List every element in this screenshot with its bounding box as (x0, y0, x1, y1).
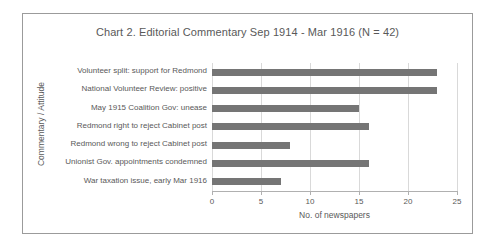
gridline-25 (457, 63, 458, 191)
bar-row: Redmond wrong to reject Cabinet post (212, 136, 457, 154)
bar-value[interactable] (212, 69, 437, 76)
x-tick-mark (261, 191, 262, 195)
category-label: National Volunteer Review: positive (82, 84, 207, 94)
category-label: War taxation issue, early Mar 1916 (84, 176, 207, 186)
bar-row: Volunteer split: support for Redmond (212, 63, 457, 81)
bar-value[interactable] (212, 105, 359, 112)
bar-value[interactable] (212, 178, 281, 185)
x-axis-title: No. of newspapers (212, 210, 457, 220)
chart-title: Chart 2. Editorial Commentary Sep 1914 -… (23, 26, 472, 38)
x-tick-mark (212, 191, 213, 195)
category-label: May 1915 Coalition Gov: unease (91, 103, 207, 113)
x-tick-label: 5 (246, 197, 276, 206)
category-label: Redmond wrong to reject Cabinet post (70, 139, 207, 149)
bar-row: Redmond right to reject Cabinet post (212, 118, 457, 136)
x-tick-mark (457, 191, 458, 195)
bar-row: May 1915 Coalition Gov: unease (212, 100, 457, 118)
x-tick-label: 20 (393, 197, 423, 206)
category-label: Volunteer split: support for Redmond (77, 66, 207, 76)
bar-value[interactable] (212, 123, 369, 130)
category-label: Redmond right to reject Cabinet post (77, 121, 207, 131)
x-tick-label: 10 (295, 197, 325, 206)
x-tick-mark (359, 191, 360, 195)
bar-value[interactable] (212, 160, 369, 167)
x-axis-line (212, 191, 457, 192)
x-tick-mark (408, 191, 409, 195)
y-axis-title: Commentary / Attitude (36, 59, 46, 189)
category-label: Unionist Gov. appointments condemned (65, 157, 207, 167)
bar-row: National Volunteer Review: positive (212, 81, 457, 99)
x-tick-mark (310, 191, 311, 195)
plot-area: Volunteer split: support for Redmond Nat… (212, 63, 457, 191)
bar-value[interactable] (212, 87, 437, 94)
bar-row: War taxation issue, early Mar 1916 (212, 173, 457, 191)
bar-row: Unionist Gov. appointments condemned (212, 154, 457, 172)
x-tick-label: 0 (197, 197, 227, 206)
bar-value[interactable] (212, 142, 290, 149)
chart-container: Chart 2. Editorial Commentary Sep 1914 -… (22, 13, 473, 234)
x-tick-label: 15 (344, 197, 374, 206)
x-tick-label: 25 (442, 197, 472, 206)
